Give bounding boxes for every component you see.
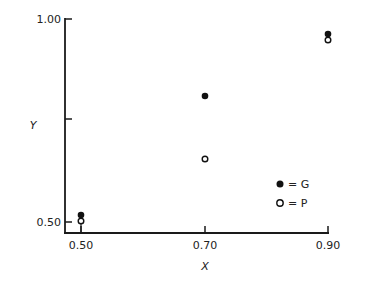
x-axis-label: X xyxy=(200,260,209,273)
y-axis-label: Y xyxy=(30,119,38,132)
legend-label-p: = P xyxy=(288,197,308,210)
scatter-chart: 1.00 0.50 0.50 0.70 0.90 X Y = G = P xyxy=(0,0,366,284)
point-g-0.50 xyxy=(78,212,85,219)
point-g-0.90 xyxy=(325,31,332,38)
legend-open-circle-icon xyxy=(277,200,283,206)
series-p xyxy=(78,37,331,224)
x-tick-label-0.70: 0.70 xyxy=(193,239,218,252)
y-tick-label-top: 1.00 xyxy=(37,13,62,26)
legend-label-g: = G xyxy=(288,178,309,191)
x-tick-label-0.50: 0.50 xyxy=(69,239,94,252)
point-p-0.50 xyxy=(78,218,84,224)
point-p-0.70 xyxy=(202,156,208,162)
point-p-0.90 xyxy=(325,37,331,43)
legend-filled-circle-icon xyxy=(277,181,284,188)
legend: = G = P xyxy=(277,178,310,210)
point-g-0.70 xyxy=(202,93,209,100)
y-tick-label-bottom: 0.50 xyxy=(37,216,62,229)
x-tick-label-0.90: 0.90 xyxy=(316,239,341,252)
